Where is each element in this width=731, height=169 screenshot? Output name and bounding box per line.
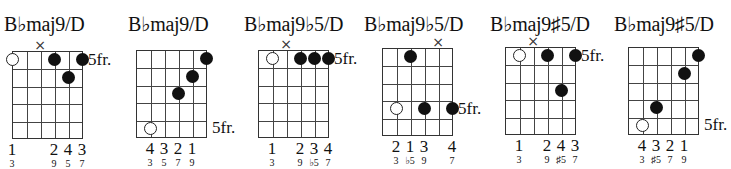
finger-number: 1 bbox=[5, 141, 19, 158]
fret-line bbox=[629, 83, 698, 84]
finger-number: 3 bbox=[417, 138, 431, 155]
fret-line bbox=[259, 103, 328, 104]
fret-line bbox=[13, 104, 82, 105]
finger-number: 4 bbox=[445, 138, 459, 155]
fretboard-grid bbox=[382, 48, 453, 136]
finger-dot-icon bbox=[62, 71, 75, 84]
root-open-circle-icon bbox=[513, 49, 526, 62]
string-line bbox=[41, 52, 42, 138]
finger-dot-icon bbox=[541, 49, 554, 62]
chord-name: B♭maj9♭5/D bbox=[244, 12, 343, 36]
root-open-circle-icon bbox=[390, 102, 403, 115]
fret-position-label: 5fr. bbox=[88, 50, 111, 70]
finger-dot-icon bbox=[294, 52, 307, 65]
string-line bbox=[671, 48, 672, 134]
finger-dot-icon bbox=[678, 67, 691, 80]
finger-dot-icon bbox=[172, 87, 185, 100]
muted-string-x-icon: × bbox=[526, 34, 540, 48]
finger-number: 4 bbox=[61, 141, 75, 158]
finger-number: 3 bbox=[75, 141, 89, 158]
finger-number: 3 bbox=[307, 140, 321, 157]
fret-line bbox=[259, 86, 328, 87]
chord-name: B♭maj9/D bbox=[4, 12, 84, 36]
string-line bbox=[397, 49, 398, 135]
string-line bbox=[657, 48, 658, 134]
finger-dot-icon bbox=[404, 50, 417, 63]
finger-number: 4 bbox=[635, 137, 649, 154]
chord-name: B♭maj9♭5/D bbox=[364, 12, 463, 36]
finger-number: 4 bbox=[554, 137, 568, 154]
root-open-circle-icon bbox=[266, 52, 279, 65]
finger-number: 4 bbox=[321, 140, 335, 157]
string-line bbox=[27, 52, 28, 138]
fretboard-grid bbox=[12, 51, 83, 139]
root-open-circle-icon bbox=[6, 53, 19, 66]
string-line bbox=[685, 48, 686, 134]
fret-line bbox=[259, 121, 328, 122]
fret-line bbox=[137, 103, 206, 104]
finger-number: 2 bbox=[389, 138, 403, 155]
string-line bbox=[534, 48, 535, 134]
string-line bbox=[69, 52, 70, 138]
fret-line bbox=[137, 68, 206, 69]
interval-label: 9 bbox=[415, 155, 433, 166]
fret-line bbox=[629, 100, 698, 101]
chord-name: B♭maj9/D bbox=[128, 12, 208, 36]
fret-position-label: 5fr. bbox=[334, 49, 357, 69]
interval-label: 7 bbox=[566, 154, 584, 165]
fret-line bbox=[506, 65, 575, 66]
interval-label: 7 bbox=[73, 158, 91, 169]
fret-line bbox=[13, 122, 82, 123]
fret-position-label: 5fr. bbox=[581, 46, 604, 66]
fret-line bbox=[13, 87, 82, 88]
chord-diagram: B♭maj9♭5/D×5fr.21343♭597 bbox=[366, 0, 488, 165]
finger-number: 3 bbox=[649, 137, 663, 154]
string-line bbox=[425, 49, 426, 135]
muted-string-x-icon: × bbox=[279, 37, 293, 51]
root-open-circle-icon bbox=[144, 122, 157, 135]
fret-line bbox=[383, 119, 452, 120]
interval-label: 3 bbox=[3, 158, 21, 169]
finger-dot-icon bbox=[200, 52, 213, 65]
finger-number: 1 bbox=[677, 137, 691, 154]
string-line bbox=[287, 51, 288, 137]
finger-number: 3 bbox=[568, 137, 582, 154]
fret-line bbox=[506, 100, 575, 101]
chord-diagram: B♭maj9/D5fr.43213579 bbox=[122, 0, 244, 165]
finger-number: 2 bbox=[47, 141, 61, 158]
fret-line bbox=[383, 66, 452, 67]
finger-dot-icon bbox=[48, 53, 61, 66]
finger-dot-icon bbox=[650, 101, 663, 114]
finger-dot-icon bbox=[76, 53, 89, 66]
fret-line bbox=[137, 86, 206, 87]
finger-number: 2 bbox=[663, 137, 677, 154]
interval-label: 7 bbox=[443, 155, 461, 166]
finger-number: 3 bbox=[157, 140, 171, 157]
root-open-circle-icon bbox=[636, 119, 649, 132]
interval-label: 3 bbox=[510, 154, 528, 165]
chord-diagram: B♭maj9/D×5fr.12433957 bbox=[0, 0, 122, 165]
finger-number: 1 bbox=[512, 137, 526, 154]
interval-label: 9 bbox=[183, 157, 201, 168]
finger-dot-icon bbox=[555, 84, 568, 97]
fret-line bbox=[383, 84, 452, 85]
fret-line bbox=[259, 68, 328, 69]
fret-line bbox=[506, 118, 575, 119]
finger-number: 4 bbox=[143, 140, 157, 157]
finger-number: 1 bbox=[185, 140, 199, 157]
muted-string-x-icon: × bbox=[431, 35, 445, 49]
finger-dot-icon bbox=[692, 49, 705, 62]
chord-diagram: B♭maj9♯5/D5fr.43213♯579 bbox=[610, 0, 731, 165]
chord-diagram: B♭maj9♯5/D×5fr.124339♯57 bbox=[488, 0, 610, 165]
finger-dot-icon bbox=[308, 52, 321, 65]
finger-number: 2 bbox=[293, 140, 307, 157]
finger-number: 1 bbox=[265, 140, 279, 157]
finger-dot-icon bbox=[418, 102, 431, 115]
interval-label: 3 bbox=[263, 157, 281, 168]
finger-dot-icon bbox=[186, 70, 199, 83]
interval-label: 9 bbox=[675, 154, 693, 165]
finger-dot-icon bbox=[569, 49, 582, 62]
string-line bbox=[193, 51, 194, 137]
interval-label: 7 bbox=[319, 157, 337, 168]
fret-line bbox=[629, 65, 698, 66]
